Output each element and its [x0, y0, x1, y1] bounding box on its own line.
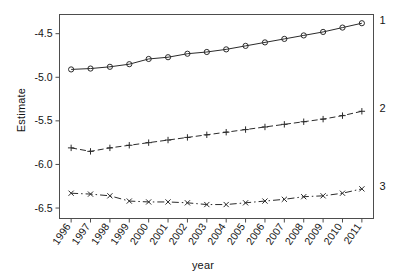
- series-2-point: [68, 145, 74, 151]
- x-tick-label: 1996: [50, 221, 73, 247]
- series-2-point: [87, 148, 93, 154]
- x-tick-label: 2000: [127, 221, 150, 247]
- y-tick-label: -6.5: [34, 202, 52, 214]
- x-tick-label: 1998: [88, 221, 111, 247]
- x-tick-label: 2005: [224, 221, 247, 247]
- series-3-point: [282, 197, 287, 202]
- series-2-point: [204, 132, 210, 138]
- series-2-point: [339, 112, 345, 118]
- x-tick-label: 1997: [69, 221, 92, 247]
- series-2-point: [301, 119, 307, 125]
- series-3-point: [107, 193, 112, 198]
- x-tick-label: 2011: [341, 221, 364, 247]
- series-2-point: [126, 142, 132, 148]
- series-2-point: [281, 121, 287, 127]
- y-tick-label: -5.5: [34, 114, 52, 126]
- series-2-point: [165, 137, 171, 143]
- series-2-point: [242, 126, 248, 132]
- chart-figure: Estimate year -4.5-5.0-5.5-6.0-6.5 19961…: [0, 0, 406, 278]
- series-2-point: [320, 116, 326, 122]
- data-series-group: [68, 21, 365, 208]
- x-tick-label: 1999: [108, 221, 131, 247]
- x-tick-label: 2007: [263, 221, 286, 247]
- x-axis-ticks: 1996199719981999200020012002200320042005…: [50, 219, 364, 247]
- series-2-line: [71, 111, 362, 151]
- y-tick-label: -5.0: [34, 71, 52, 83]
- plot-frame: [60, 15, 374, 219]
- y-tick-label: -4.5: [34, 27, 52, 39]
- x-tick-label: 2010: [321, 221, 344, 247]
- series-label-3: 3: [380, 180, 386, 192]
- x-tick-label: 2001: [146, 221, 169, 247]
- x-tick-label: 2002: [166, 221, 189, 247]
- series-3-line: [71, 189, 362, 205]
- series-3-point: [165, 199, 170, 204]
- series-3-point: [224, 202, 229, 207]
- series-1-line: [71, 23, 362, 69]
- plot-area: -4.5-5.0-5.5-6.0-6.5 1996199719981999200…: [0, 0, 406, 278]
- series-2-point: [107, 145, 113, 151]
- series-end-labels: 123: [380, 14, 386, 192]
- series-label-1: 1: [380, 14, 386, 26]
- y-axis-ticks: -4.5-5.0-5.5-6.0-6.5: [34, 27, 59, 213]
- series-2-point: [184, 134, 190, 140]
- x-tick-label: 2009: [302, 221, 325, 247]
- series-2-point: [145, 139, 151, 145]
- series-2-point: [359, 108, 365, 114]
- series-label-2: 2: [380, 102, 386, 114]
- series-2-point: [223, 129, 229, 135]
- y-tick-label: -6.0: [34, 158, 52, 170]
- x-tick-label: 2003: [185, 221, 208, 247]
- x-tick-label: 2004: [205, 221, 228, 247]
- x-tick-label: 2008: [282, 221, 305, 247]
- series-2-point: [262, 124, 268, 130]
- x-tick-label: 2006: [243, 221, 266, 247]
